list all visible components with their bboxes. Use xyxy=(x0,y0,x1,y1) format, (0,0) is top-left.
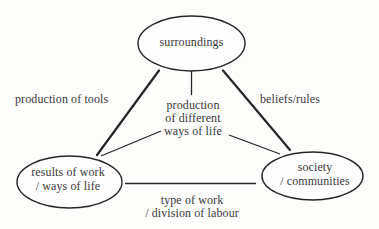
edge-surroundings-to-results xyxy=(97,71,159,156)
bottom-label-line2: / division of labour xyxy=(145,207,239,220)
edge-results-to-center-label xyxy=(101,131,161,156)
results-of-work-line2: / ways of life xyxy=(31,179,105,193)
center-label-line3: ways of life xyxy=(164,125,222,138)
society-line2: / communities xyxy=(280,174,350,188)
type-of-work-edge-label: type of work / division of labour xyxy=(145,194,239,220)
society-node-label: society / communities xyxy=(280,161,350,188)
surroundings-node-text: surroundings xyxy=(160,35,224,49)
edge-surroundings-to-society xyxy=(223,71,290,151)
edge-center-label-to-society xyxy=(229,135,280,154)
concept-diagram: surroundings results of work / ways of l… xyxy=(0,0,379,229)
beliefs-rules-edge-label: beliefs/rules xyxy=(260,93,320,106)
results-of-work-node-label: results of work / ways of life xyxy=(31,166,105,193)
production-of-ways-of-life-edge-label: production of different ways of life xyxy=(164,99,222,138)
surroundings-node-label: surroundings xyxy=(160,36,224,50)
results-of-work-line1: results of work xyxy=(31,166,105,180)
society-line1: society xyxy=(280,161,350,175)
production-of-tools-edge-label: production of tools xyxy=(15,93,108,106)
